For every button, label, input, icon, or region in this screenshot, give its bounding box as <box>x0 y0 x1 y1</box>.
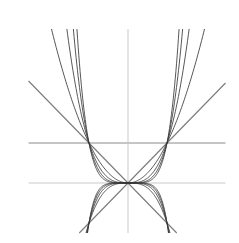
power-functions-plot <box>0 0 239 243</box>
reference-line-y-x <box>79 83 225 233</box>
reference-lines <box>29 29 226 233</box>
reference-line-y-x <box>29 81 177 233</box>
